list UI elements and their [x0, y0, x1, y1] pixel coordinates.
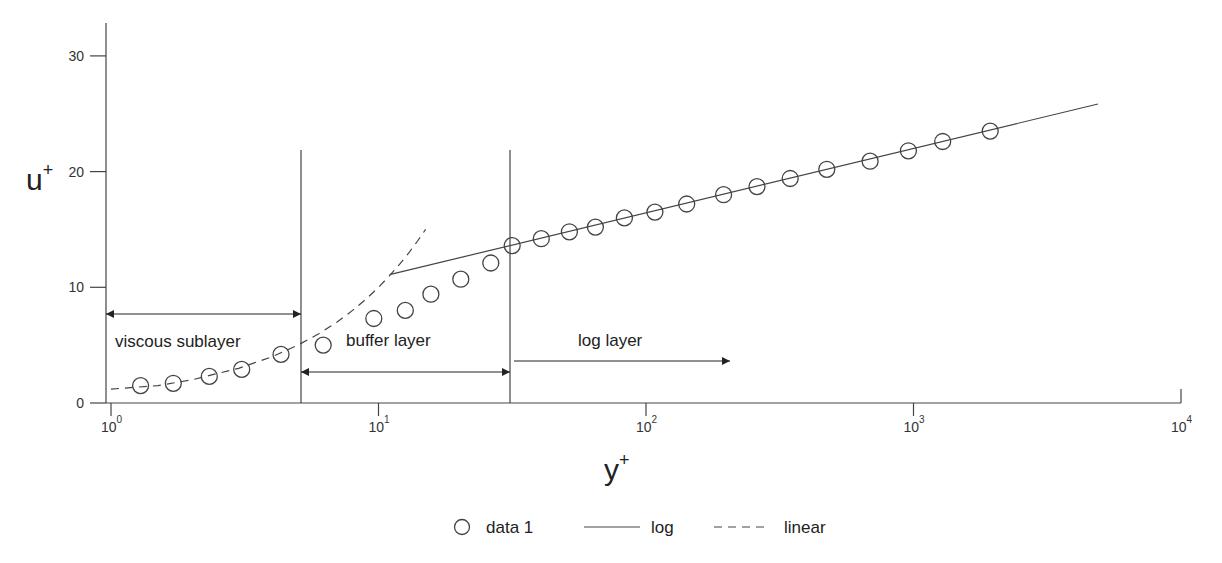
legend: data 1 log linear — [455, 518, 826, 537]
data-point — [483, 255, 499, 271]
x-tick-label: 100 — [101, 414, 123, 435]
plot-series — [111, 104, 1098, 394]
data-point — [315, 337, 331, 353]
legend-label-log: log — [651, 518, 674, 537]
x-tick-label: 101 — [369, 414, 391, 435]
x-tick-label: 102 — [636, 414, 658, 435]
data-point — [133, 378, 149, 394]
y-tick-label: 0 — [76, 395, 84, 411]
x-tick-label: 104 — [1171, 414, 1193, 435]
viscous-sublayer-label: viscous sublayer — [115, 332, 241, 351]
legend-label-linear: linear — [784, 518, 826, 537]
x-tick-label: 103 — [904, 414, 926, 435]
data-point — [587, 219, 603, 235]
legend-item-log: log — [584, 518, 674, 537]
axis-labels: u+ y+ — [26, 160, 630, 486]
log-layer-label: log layer — [578, 331, 643, 350]
circle-marker-icon — [455, 520, 470, 535]
data-point — [533, 231, 549, 247]
y-axis-title: u+ — [26, 160, 53, 196]
legend-label-data1: data 1 — [486, 518, 533, 537]
region-annotations — [106, 150, 730, 403]
data-point — [453, 271, 469, 287]
data-point — [397, 302, 413, 318]
y-tick-label: 30 — [68, 48, 84, 64]
region-labels: viscous sublayer buffer layer log layer — [115, 331, 643, 351]
data-point — [366, 311, 382, 327]
y-tick-label: 10 — [68, 279, 84, 295]
linear-fit-line — [111, 229, 426, 389]
legend-item-data1: data 1 — [455, 518, 534, 537]
chart: 0102030100101102103104 u+ y+ viscous sub… — [0, 0, 1222, 563]
log-law-line — [390, 104, 1098, 275]
axes: 0102030100101102103104 — [68, 23, 1192, 435]
data-point — [201, 368, 217, 384]
data-point — [862, 153, 878, 169]
legend-item-linear: linear — [714, 518, 826, 537]
y-tick-label: 20 — [68, 164, 84, 180]
data-point — [423, 286, 439, 302]
data-point — [273, 346, 289, 362]
x-axis-title: y+ — [604, 450, 630, 486]
buffer-layer-label: buffer layer — [346, 331, 431, 350]
